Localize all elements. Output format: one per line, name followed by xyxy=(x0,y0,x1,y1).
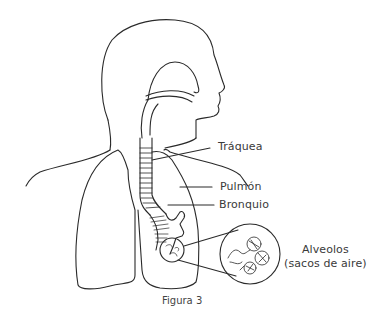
label-trachea: Tráquea xyxy=(218,140,263,153)
alveoli-small-detail xyxy=(166,245,179,256)
alveoli-large-circle xyxy=(220,224,280,284)
throat xyxy=(141,100,158,138)
lung-left xyxy=(76,150,135,289)
lung-right xyxy=(138,151,199,288)
neck-back xyxy=(108,120,111,150)
bronchus xyxy=(150,211,185,254)
alveoli-clusters xyxy=(228,237,269,274)
label-alveoli-desc: (sacos de aire) xyxy=(284,257,367,271)
neck-front xyxy=(165,138,196,148)
leader-trachea xyxy=(152,148,210,160)
shoulder-left xyxy=(26,150,110,186)
anatomy-illustration xyxy=(0,0,371,322)
label-lung: Pulmón xyxy=(220,180,262,193)
figure-caption: Figura 3 xyxy=(162,295,202,306)
respiratory-diagram: Tráquea Pulmón Bronquio Alveolos (sacos … xyxy=(0,0,371,322)
label-bronchus: Bronquio xyxy=(219,198,269,211)
label-alveoli-name: Alveolos xyxy=(284,243,367,257)
trachea-tube xyxy=(140,138,166,215)
palate xyxy=(146,91,194,102)
trachea-rings xyxy=(140,148,160,208)
label-alveoli: Alveolos (sacos de aire) xyxy=(284,243,367,271)
head-outline xyxy=(102,20,225,138)
